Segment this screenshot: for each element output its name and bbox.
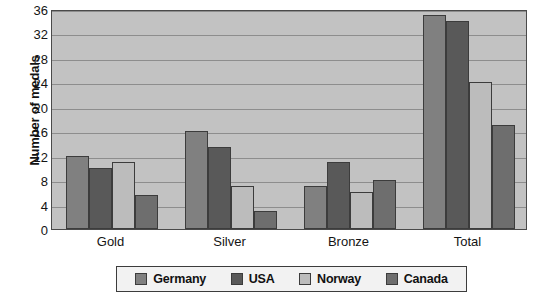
bar[interactable] <box>304 186 327 229</box>
chart-legend: GermanyUSANorwayCanada <box>116 266 467 292</box>
legend-item[interactable]: Germany <box>135 272 206 286</box>
bar[interactable] <box>254 211 277 229</box>
bar[interactable] <box>469 82 492 229</box>
y-tick-label: 32 <box>20 28 48 41</box>
x-tick-label: Total <box>454 234 481 249</box>
legend-swatch-icon <box>135 273 147 285</box>
bar[interactable] <box>185 131 208 229</box>
legend-swatch-icon <box>231 273 243 285</box>
bar-group <box>52 11 171 229</box>
legend-item[interactable]: USA <box>231 272 275 286</box>
plot-area <box>51 10 527 230</box>
bar-group <box>409 11 527 229</box>
bar[interactable] <box>373 180 396 229</box>
x-axis-tick-labels: GoldSilverBronzeTotal <box>51 234 527 254</box>
legend-label: Canada <box>404 272 448 286</box>
y-tick-label: 24 <box>20 77 48 90</box>
x-tick-label: Silver <box>213 234 246 249</box>
legend-swatch-icon <box>299 273 311 285</box>
bar[interactable] <box>350 192 373 229</box>
legend-swatch-icon <box>386 273 398 285</box>
y-tick-label: 8 <box>20 175 48 188</box>
y-tick-label: 12 <box>20 150 48 163</box>
bar-group <box>290 11 409 229</box>
bar[interactable] <box>112 162 135 229</box>
y-axis-tick-labels: 04812162024283236 <box>20 10 48 230</box>
bar[interactable] <box>66 156 89 229</box>
bar[interactable] <box>327 162 350 229</box>
x-tick-label: Bronze <box>328 234 369 249</box>
legend-item[interactable]: Canada <box>386 272 448 286</box>
bar[interactable] <box>423 15 446 229</box>
y-tick-label: 0 <box>20 224 48 237</box>
y-tick-label: 16 <box>20 126 48 139</box>
y-tick-label: 4 <box>20 199 48 212</box>
legend-label: Germany <box>153 272 206 286</box>
bar[interactable] <box>208 147 231 230</box>
bars-layer <box>52 11 526 229</box>
y-tick-label: 20 <box>20 101 48 114</box>
bar[interactable] <box>446 21 469 229</box>
y-tick-label: 36 <box>20 4 48 17</box>
y-tick-label: 28 <box>20 52 48 65</box>
bar[interactable] <box>231 186 254 229</box>
bar[interactable] <box>492 125 515 229</box>
x-tick-label: Gold <box>97 234 124 249</box>
medals-bar-chart: Number of medals 04812162024283236 GoldS… <box>0 0 544 301</box>
bar-group <box>171 11 290 229</box>
legend-label: USA <box>249 272 275 286</box>
legend-label: Norway <box>317 272 361 286</box>
bar[interactable] <box>135 195 158 229</box>
legend-item[interactable]: Norway <box>299 272 361 286</box>
bar[interactable] <box>89 168 112 229</box>
